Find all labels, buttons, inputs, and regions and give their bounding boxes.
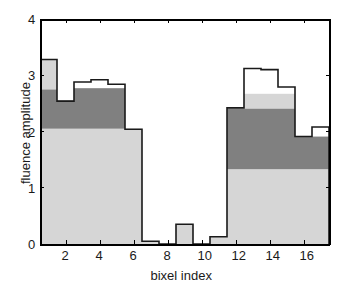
bar-segment — [261, 94, 278, 109]
axis-bottom — [40, 244, 330, 246]
bar-segment — [278, 94, 295, 109]
y-tick-label: 1 — [28, 182, 35, 195]
bar-segment — [244, 169, 261, 244]
x-tick-label: 8 — [164, 249, 171, 262]
x-tick-top — [236, 19, 237, 23]
y-tick-label: 4 — [28, 13, 35, 26]
bar-segment — [210, 237, 227, 244]
x-tick-label: 12 — [232, 249, 246, 262]
bar-segment — [312, 169, 329, 244]
x-tick-top — [168, 19, 169, 23]
y-tick-right — [326, 244, 330, 245]
plot-area — [40, 19, 329, 244]
y-tick-label: 3 — [28, 69, 35, 82]
x-tick — [202, 240, 203, 244]
y-tick-right — [326, 75, 330, 76]
x-tick — [66, 240, 67, 244]
plot-svg — [40, 19, 329, 244]
bar-segment — [91, 129, 108, 244]
x-tick-top — [270, 19, 271, 23]
bar-segment — [244, 108, 261, 169]
x-tick-label: 14 — [266, 249, 280, 262]
x-tick — [236, 240, 237, 244]
bar-segment — [278, 169, 295, 244]
bar-segment — [227, 108, 244, 169]
x-tick-label: 10 — [198, 249, 212, 262]
x-tick-top — [134, 19, 135, 23]
bar-segment — [312, 137, 329, 170]
x-tick — [168, 240, 169, 244]
figure: 24681012141601234 fluence amplitude bixe… — [0, 0, 343, 293]
x-tick — [100, 240, 101, 244]
x-tick-label: 2 — [62, 249, 69, 262]
bar-segment — [261, 169, 278, 244]
x-tick-top — [304, 19, 305, 23]
bar-segment — [278, 108, 295, 169]
bar-segment — [125, 129, 142, 244]
y-tick-label: 2 — [28, 126, 35, 139]
x-tick-label: 6 — [130, 249, 137, 262]
y-tick — [40, 131, 44, 132]
bar-segment — [74, 88, 91, 129]
y-tick-label: 0 — [28, 238, 35, 251]
bar-segment — [91, 88, 108, 129]
bar-segment — [176, 224, 193, 244]
bar-segment — [40, 89, 57, 128]
x-tick-top — [202, 19, 203, 23]
bar-segment — [261, 108, 278, 169]
x-tick — [134, 240, 135, 244]
x-tick — [270, 240, 271, 244]
x-tick-top — [66, 19, 67, 23]
x-tick-label: 16 — [300, 249, 314, 262]
y-tick — [40, 244, 44, 245]
bar-segment — [108, 129, 125, 244]
bar-segment — [74, 129, 91, 244]
bar-segment — [57, 129, 74, 244]
bar-segment — [295, 169, 312, 244]
y-tick-right — [326, 131, 330, 132]
bar-segment — [108, 88, 125, 129]
y-tick-right — [326, 187, 330, 188]
bar-segment — [295, 137, 312, 170]
x-tick — [304, 240, 305, 244]
bar-segment — [227, 169, 244, 244]
x-tick-label: 4 — [96, 249, 103, 262]
bar-segment — [57, 101, 74, 129]
x-axis-label: bixel index — [151, 268, 212, 283]
y-tick — [40, 187, 44, 188]
axis-top — [40, 19, 330, 21]
y-tick — [40, 19, 44, 20]
x-tick-top — [100, 19, 101, 23]
y-tick-right — [326, 19, 330, 20]
bar-segment — [244, 94, 261, 109]
y-tick — [40, 75, 44, 76]
